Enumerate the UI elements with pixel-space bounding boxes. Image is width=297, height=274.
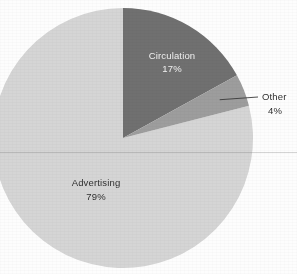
slice-label-circulation: Circulation — [149, 50, 196, 61]
slice-value-circulation: 17% — [162, 63, 182, 74]
slice-value-advertising: 79% — [86, 191, 106, 202]
slice-label-advertising: Advertising — [72, 177, 121, 188]
pie-chart: Circulation 17% Other 4% Advertising 79% — [0, 0, 297, 274]
slice-value-other: 4% — [268, 105, 282, 116]
slice-label-other: Other — [262, 91, 287, 102]
chart-figure: Circulation 17% Other 4% Advertising 79% — [0, 0, 297, 274]
